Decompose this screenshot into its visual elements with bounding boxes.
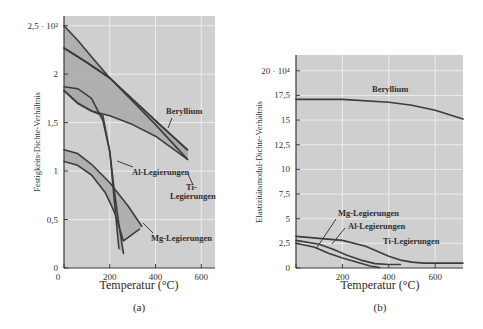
y-tick-label: 0 (286, 263, 291, 273)
chart-a-y-label: Festigkeits-Dichte-Verhältnis (32, 92, 42, 192)
x-tick-label: 0 (56, 272, 61, 282)
y-tick-label: 20 · 10⁴ (261, 66, 290, 76)
y-tick-label: 1,5 (47, 118, 59, 128)
chart-b-label-mg: Mg-Legierungen (338, 208, 399, 218)
y-tick-label: 12,5 (274, 140, 290, 150)
chart-a-label-mg: Mg-Legierungen (151, 233, 212, 243)
chart-b-y-label: Elastizitätsmodul-Dichte-Verhältnis (254, 101, 264, 223)
y-tick-label: 15 (281, 115, 291, 125)
chart-a-label-beryllium: Beryllium (166, 106, 202, 116)
chart-b-label-al: Al-Legierungen (348, 221, 405, 231)
y-tick-label: 0,5 (47, 215, 59, 225)
y-tick-label: 17,5 (274, 90, 290, 100)
y-tick-label: 2 (54, 69, 59, 79)
chart-b-modulus-density: 20040060002,557,51012,51517,520 · 10⁴ Be… (254, 55, 463, 314)
y-tick-label: 0 (54, 263, 59, 273)
chart-a-label-al: Al-Legierungen (132, 167, 189, 177)
chart-a-caption: (a) (133, 301, 146, 314)
y-tick-label: 2,5 (279, 238, 291, 248)
y-tick-label: 1 (54, 166, 59, 176)
x-tick-label: 600 (428, 272, 442, 282)
x-tick-label: 600 (195, 272, 209, 282)
chart-b-caption: (b) (374, 301, 387, 314)
y-tick-label: 7,5 (279, 189, 291, 199)
chart-b-label-beryllium: Beryllium (372, 84, 408, 94)
chart-a-x-label: Temperatur (°C) (100, 278, 179, 292)
chart-a-label-ti-2: Legierungen (170, 191, 216, 201)
y-tick-label: 2,5 · 10² (28, 21, 59, 31)
figure: 020040060000,511,522,5 · 10² Beryllium A… (0, 0, 483, 329)
chart-a-strength-density: 020040060000,511,522,5 · 10² Beryllium A… (28, 16, 217, 314)
chart-b-x-label: Temperatur (°C) (341, 278, 420, 292)
y-tick-label: 5 (286, 214, 291, 224)
chart-b-label-ti: Ti-Legierungen (383, 236, 440, 246)
y-tick-label: 10 (281, 164, 291, 174)
